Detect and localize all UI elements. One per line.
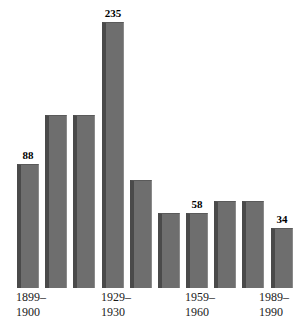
bar-rect[interactable] (102, 22, 124, 288)
bar-1989-1990[interactable]: 34 (271, 228, 293, 288)
bar-value-label: 235 (105, 8, 122, 19)
axis-label-line-2: 1900 (16, 305, 46, 320)
bar-value-label: 88 (23, 150, 34, 161)
category-axis: 1899–19001929–19301959–19601989–1990 (0, 290, 308, 331)
bar-rect[interactable] (214, 201, 236, 288)
plot-area: 882355834 (0, 0, 308, 288)
axis-label-line-2: 1960 (185, 305, 215, 320)
bar-rect[interactable] (130, 180, 152, 288)
bar-rect[interactable] (242, 201, 264, 288)
bar-rect[interactable] (17, 164, 39, 288)
bar-rect[interactable] (73, 115, 95, 288)
axis-label-1959-1960: 1959–1960 (185, 290, 215, 320)
bar-rect[interactable] (45, 115, 67, 288)
axis-label-1929-1930: 1929–1930 (101, 290, 131, 320)
axis-label-line-1: 1929– (101, 290, 131, 304)
axis-label-line-1: 1899– (16, 290, 46, 304)
bar-1959-1960[interactable]: 58 (186, 213, 208, 288)
bar-1979-1980[interactable] (242, 201, 264, 288)
bar-1909-1910[interactable] (45, 115, 67, 288)
bar-1969-1970[interactable] (214, 201, 236, 288)
bar-1949-1950[interactable] (158, 213, 180, 288)
bar-chart: 882355834 1899–19001929–19301959–1960198… (0, 0, 308, 331)
bar-rect[interactable] (186, 213, 208, 288)
axis-label-line-1: 1959– (185, 290, 215, 304)
axis-label-line-2: 1930 (101, 305, 131, 320)
bar-value-label: 34 (277, 214, 288, 225)
axis-label-line-1: 1989– (259, 290, 289, 304)
bar-1929-1930[interactable]: 235 (102, 22, 124, 288)
bar-1939-1940[interactable] (130, 180, 152, 288)
bar-rect[interactable] (158, 213, 180, 288)
bar-rect[interactable] (271, 228, 293, 288)
bar-1899-1900[interactable]: 88 (17, 164, 39, 288)
axis-label-1899-1900: 1899–1900 (16, 290, 46, 320)
bar-value-label: 58 (192, 199, 203, 210)
axis-label-1989-1990: 1989–1990 (259, 290, 289, 320)
bar-1919-1920[interactable] (73, 115, 95, 288)
axis-label-line-2: 1990 (259, 305, 289, 320)
